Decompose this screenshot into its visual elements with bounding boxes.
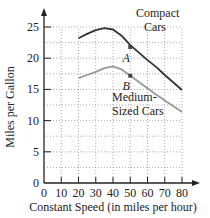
y-tick-label: 10	[27, 114, 39, 128]
compact-cars-label: Compact	[136, 6, 180, 20]
x-tick-label: 20	[73, 186, 85, 200]
x-tick-label: 60	[142, 186, 154, 200]
y-tick-label: 15	[27, 82, 39, 96]
x-tick-label: 50	[124, 186, 136, 200]
x-tick-label: 10	[55, 186, 67, 200]
mpg-chart: 01020304050607080 0510152025 CompactCars…	[0, 0, 210, 218]
x-tick-label: 70	[159, 186, 171, 200]
compact-cars-label: Cars	[144, 20, 166, 34]
point-b-label: B	[123, 79, 131, 93]
x-tick-label: 0	[41, 186, 47, 200]
x-tick-labels: 01020304050607080	[41, 177, 188, 200]
y-tick-label: 25	[27, 20, 39, 34]
y-tick-label: 5	[33, 145, 39, 159]
y-tick-label: 0	[33, 176, 39, 190]
x-tick-label: 80	[176, 186, 188, 200]
point-a-marker	[128, 45, 132, 49]
x-tick-label: 40	[107, 186, 119, 200]
y-axis-label: Miles per Gallon	[3, 66, 17, 147]
y-axis-arrow-icon	[41, 8, 47, 16]
point-b-marker	[128, 74, 132, 78]
medium-cars-label: Medium-	[112, 90, 157, 104]
x-axis-arrow-icon	[192, 180, 200, 186]
medium-cars-label: Sized Cars	[112, 104, 164, 118]
y-tick-label: 20	[27, 51, 39, 65]
x-axis-label: Constant Speed (in miles per hour)	[29, 200, 197, 214]
x-tick-label: 30	[90, 186, 102, 200]
point-a-label: A	[122, 51, 131, 65]
point-annotations: AB	[122, 45, 133, 93]
